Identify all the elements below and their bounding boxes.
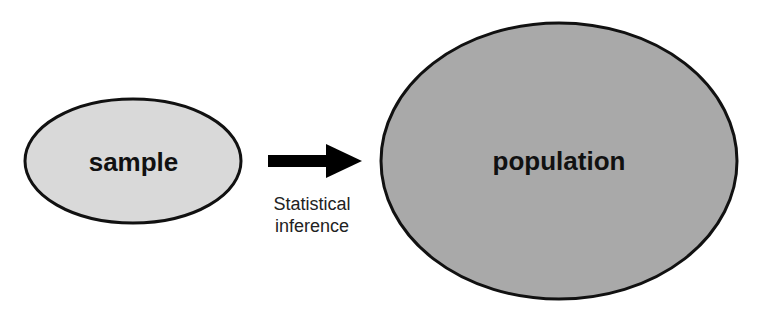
inference-label-line1: Statistical bbox=[250, 193, 374, 215]
inference-label-line2: inference bbox=[250, 215, 374, 237]
inference-label: Statistical inference bbox=[250, 193, 374, 237]
arrow-right-icon bbox=[268, 144, 362, 178]
sample-label: sample bbox=[25, 147, 242, 178]
population-label: population bbox=[380, 146, 738, 177]
